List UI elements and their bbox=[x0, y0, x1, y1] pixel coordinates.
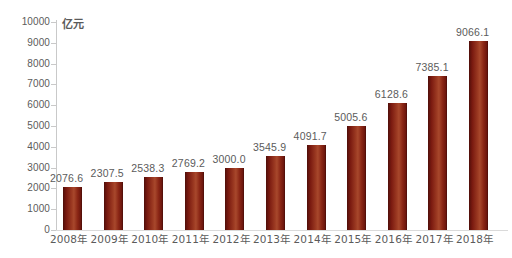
y-tick-mark bbox=[51, 168, 56, 169]
x-tick-label: 2012年 bbox=[212, 233, 249, 245]
y-tick-mark bbox=[51, 188, 56, 189]
bar[interactable] bbox=[428, 76, 447, 230]
x-tick-label: 2017年 bbox=[415, 233, 452, 245]
y-tick-mark bbox=[51, 22, 56, 23]
y-tick-mark bbox=[51, 126, 56, 127]
y-tick-mark bbox=[51, 43, 56, 44]
y-tick-mark bbox=[51, 105, 56, 106]
bar[interactable] bbox=[144, 177, 163, 230]
y-tick-mark bbox=[51, 147, 56, 148]
y-tick-mark bbox=[51, 209, 56, 210]
bar-value-label: 6128.6 bbox=[375, 89, 408, 100]
bar-value-label: 3545.9 bbox=[253, 142, 286, 153]
bar-value-label: 5005.6 bbox=[334, 112, 367, 123]
bar[interactable] bbox=[469, 41, 488, 230]
bar[interactable] bbox=[347, 126, 366, 230]
y-tick-mark bbox=[51, 230, 56, 231]
bar[interactable] bbox=[225, 168, 244, 230]
bar[interactable] bbox=[104, 182, 123, 230]
bar[interactable] bbox=[388, 103, 407, 230]
bar[interactable] bbox=[185, 172, 204, 230]
bar-value-label: 2307.5 bbox=[91, 168, 124, 179]
bar[interactable] bbox=[266, 156, 285, 230]
x-tick-label: 2018年 bbox=[456, 233, 493, 245]
x-tick-label: 2013年 bbox=[253, 233, 290, 245]
bar-value-label: 3000.0 bbox=[212, 154, 245, 165]
bar-chart: 亿元 1000090008000700060005000400030002000… bbox=[0, 0, 512, 258]
x-tick-label: 2008年 bbox=[50, 233, 87, 245]
bar-value-label: 9066.1 bbox=[456, 27, 489, 38]
x-tick-label: 2015年 bbox=[334, 233, 371, 245]
x-tick-label: 2011年 bbox=[172, 233, 209, 245]
plot-area: 2076.62008年2307.52009年2538.32010年2769.22… bbox=[0, 0, 512, 258]
bar-value-label: 7385.1 bbox=[415, 62, 448, 73]
bar-value-label: 4091.7 bbox=[294, 131, 327, 142]
bar-value-label: 2769.2 bbox=[172, 158, 205, 169]
bar-value-label: 2076.6 bbox=[50, 173, 83, 184]
x-tick-label: 2009年 bbox=[91, 233, 128, 245]
y-tick-mark bbox=[51, 84, 56, 85]
x-tick-label: 2016年 bbox=[375, 233, 412, 245]
bar-value-label: 2538.3 bbox=[131, 163, 164, 174]
x-tick-label: 2010年 bbox=[131, 233, 168, 245]
bar[interactable] bbox=[307, 145, 326, 230]
x-tick-label: 2014年 bbox=[294, 233, 331, 245]
y-tick-mark bbox=[51, 64, 56, 65]
bar[interactable] bbox=[63, 187, 82, 230]
